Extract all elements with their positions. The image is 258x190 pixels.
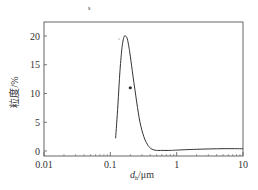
y-tick-label: 10 (30, 88, 40, 99)
y-tick-label: 15 (30, 59, 40, 70)
data-marker (129, 86, 132, 89)
x-tick-label: 0.01 (35, 159, 53, 170)
speck (119, 39, 120, 40)
x-tick-label: 0.1 (104, 159, 117, 170)
y-axis-title: 粒度/% (8, 76, 20, 107)
y-tick-label: 20 (30, 31, 40, 42)
x-tick-label: 1 (174, 159, 179, 170)
x-tick-label: 10 (238, 159, 248, 170)
y-tick-label: 5 (35, 117, 40, 128)
x-axis: 0.010.1110 (35, 152, 248, 170)
distribution-curve (116, 36, 243, 151)
chart: s 05101520 0.010.1110 dh/μm 粒度/% (0, 0, 258, 190)
y-tick-label: 0 (35, 146, 40, 157)
top-mark: s (88, 5, 91, 11)
x-axis-title: dh/μm (130, 169, 154, 181)
